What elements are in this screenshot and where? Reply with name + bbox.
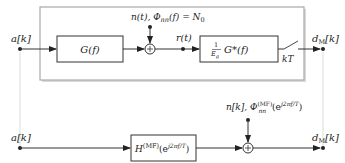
- mf-body-label: G*(f): [224, 44, 249, 55]
- bottom-output-label: dM[k]: [312, 132, 339, 145]
- sampler-label: kT: [282, 54, 294, 64]
- transmit-filter-label: G(f): [80, 44, 100, 55]
- received-signal-node: [181, 47, 185, 51]
- mf-fraction-numerator: 1: [214, 41, 218, 49]
- top-output-node: [321, 47, 325, 51]
- top-input-label: a[k]: [11, 33, 31, 44]
- received-signal-label: r(t): [176, 32, 192, 43]
- top-output-label: dM[k]: [312, 33, 339, 46]
- bottom-noise-label: n[k], Φ(MF)nn(ej2πf/T): [226, 100, 302, 114]
- bottom-signal-chain: a[k] H(MF)(ej2πf/T) n[k], Φ(MF)nn(ej2πf/…: [11, 100, 339, 161]
- bottom-output-node: [321, 146, 325, 150]
- block-diagram: a[k] G(f) n(t), Φnn(f) = N0 r(t) 1 Eg G*…: [0, 0, 345, 163]
- bottom-input-label: a[k]: [11, 132, 31, 143]
